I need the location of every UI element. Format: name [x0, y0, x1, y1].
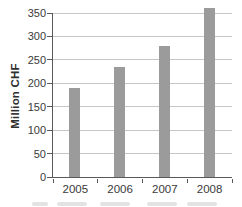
y-axis-tick-label: 150 — [0, 101, 46, 112]
cropped-caption-fragment — [32, 202, 48, 206]
bar — [114, 67, 125, 177]
y-axis-tick-label: 250 — [0, 54, 46, 65]
y-axis-tick — [47, 130, 52, 131]
bar — [159, 46, 170, 177]
y-axis-tick — [47, 59, 52, 60]
x-axis-tick-label: 2008 — [197, 183, 223, 195]
plot-area — [52, 13, 232, 178]
bar — [69, 88, 80, 177]
x-axis-tick — [232, 179, 233, 183]
y-axis-tick — [47, 13, 52, 14]
y-axis-tick — [47, 177, 52, 178]
x-axis-tick-label: 2005 — [63, 183, 89, 195]
bar-chart: Million CHF 0501001502002503003502005200… — [0, 0, 242, 207]
y-axis-tick-label: 50 — [0, 148, 46, 159]
y-axis-title: Million CHF — [9, 63, 21, 128]
cropped-caption-fragment — [100, 202, 130, 206]
y-axis-tick — [47, 106, 52, 107]
y-axis-tick-label: 300 — [0, 31, 46, 42]
cropped-caption-fragment — [187, 202, 217, 206]
x-axis-tick — [97, 179, 98, 183]
bar — [204, 8, 215, 177]
y-axis-tick-label: 0 — [0, 172, 46, 183]
y-axis-tick — [47, 83, 52, 84]
x-axis-tick — [53, 179, 54, 183]
cropped-caption-fragment — [147, 202, 177, 206]
x-axis-tick-label: 2007 — [152, 183, 178, 195]
y-axis-tick — [47, 153, 52, 154]
cropped-caption-fragment — [57, 202, 87, 206]
y-axis-tick-label: 200 — [0, 78, 46, 89]
x-axis-tick — [142, 179, 143, 183]
y-axis-tick — [47, 36, 52, 37]
y-axis-tick-label: 350 — [0, 8, 46, 19]
x-axis-tick — [187, 179, 188, 183]
y-axis-tick-label: 100 — [0, 125, 46, 136]
x-axis-tick-label: 2006 — [107, 183, 133, 195]
